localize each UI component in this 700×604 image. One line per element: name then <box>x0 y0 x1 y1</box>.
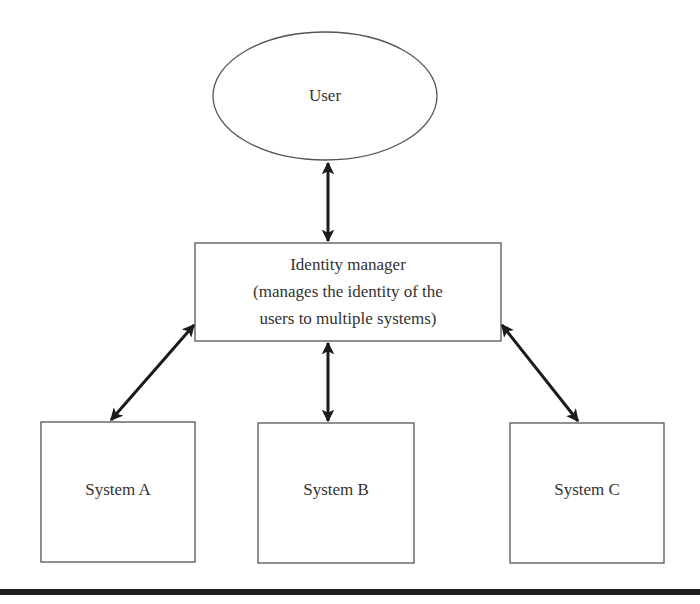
identity-manager-description-line-2: users to multiple systems) <box>195 305 501 332</box>
user-node-label: User <box>213 82 437 109</box>
identity-system-a-arrow <box>111 325 194 420</box>
identity-manager-title: Identity manager <box>195 251 501 278</box>
identity-system-c-arrow <box>502 325 578 421</box>
system-c-node-label: System C <box>510 476 664 503</box>
identity-manager-description-line-1: (manages the identity of the <box>195 278 501 305</box>
bottom-rule-divider <box>0 589 700 595</box>
identity-manager-node-label: Identity manager (manages the identity o… <box>195 251 501 332</box>
system-a-node-label: System A <box>41 476 195 503</box>
system-b-node-label: System B <box>258 476 414 503</box>
